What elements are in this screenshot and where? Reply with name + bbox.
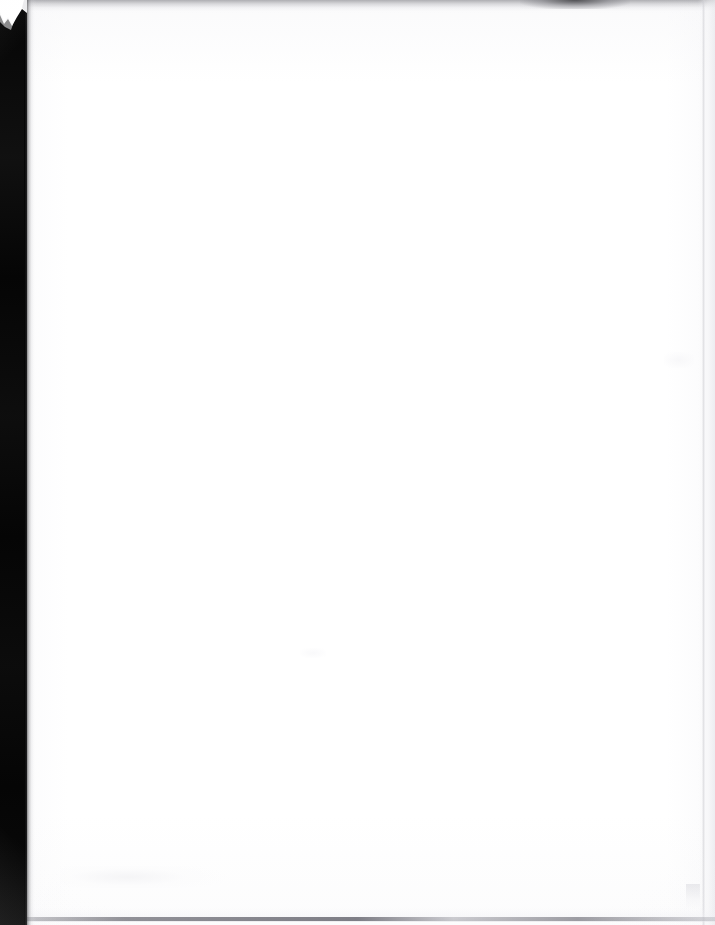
scanner-bed-band (0, 0, 27, 925)
scanned-document-page: blank page (0, 0, 715, 925)
paper-sheet (27, 0, 715, 925)
